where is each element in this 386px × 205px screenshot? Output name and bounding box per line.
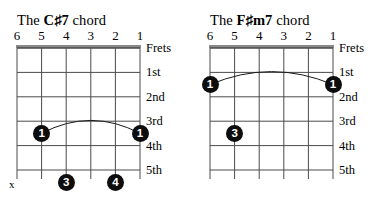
chord-title: The F♯m7 chord bbox=[210, 12, 310, 28]
chord-diagram-f-sharp-m7: The F♯m7 chord 654321 Frets1st2nd3rd4th5… bbox=[193, 0, 386, 205]
string-number-5: 5 bbox=[38, 28, 45, 44]
chord-title-name: C♯7 bbox=[44, 12, 69, 28]
fret-label-4th: 4th bbox=[146, 139, 162, 153]
fret-label-2nd: 2nd bbox=[339, 90, 358, 104]
finger-dot-1: 1 bbox=[33, 125, 50, 142]
finger-dot-3: 3 bbox=[58, 174, 75, 191]
fret-label-2nd: 2nd bbox=[146, 90, 165, 104]
finger-dot-4: 4 bbox=[107, 174, 124, 191]
fret-label-1st: 1st bbox=[339, 65, 354, 79]
fret-label-3rd: 3rd bbox=[146, 114, 163, 128]
chord-title-name: F♯m7 bbox=[237, 12, 273, 28]
barre-arc bbox=[42, 120, 140, 133]
chord-title-prefix: The bbox=[17, 12, 44, 28]
string-number-5: 5 bbox=[231, 28, 238, 44]
muted-string-marker: x bbox=[9, 178, 15, 190]
fret-label-3rd: 3rd bbox=[339, 114, 356, 128]
chord-title-prefix: The bbox=[210, 12, 237, 28]
finger-dot-1: 1 bbox=[202, 76, 219, 93]
string-number-2: 2 bbox=[305, 28, 312, 44]
chord-title-suffix: chord bbox=[272, 12, 309, 28]
string-number-3: 3 bbox=[281, 28, 288, 44]
fret-label-5th: 5th bbox=[339, 163, 355, 177]
chord-chart-page: The C♯7 chord 654321 Frets1st2nd3rd4th5t… bbox=[0, 0, 386, 205]
string-number-1: 1 bbox=[330, 28, 337, 44]
string-number-1: 1 bbox=[137, 28, 144, 44]
chord-diagram-c-sharp-7: The C♯7 chord 654321 Frets1st2nd3rd4th5t… bbox=[0, 0, 193, 205]
chord-title: The C♯7 chord bbox=[17, 12, 106, 28]
fret-label-frets: Frets bbox=[146, 41, 171, 55]
finger-dot-1: 1 bbox=[132, 125, 149, 142]
fret-label-5th: 5th bbox=[146, 163, 162, 177]
finger-dot-1: 1 bbox=[325, 76, 342, 93]
finger-dot-3: 3 bbox=[226, 125, 243, 142]
fret-label-4th: 4th bbox=[339, 139, 355, 153]
string-number-6: 6 bbox=[14, 28, 21, 44]
string-number-4: 4 bbox=[256, 28, 263, 44]
string-number-2: 2 bbox=[112, 28, 119, 44]
fret-label-frets: Frets bbox=[339, 41, 364, 55]
barre-arc bbox=[210, 72, 333, 85]
string-number-3: 3 bbox=[88, 28, 95, 44]
fret-label-1st: 1st bbox=[146, 65, 161, 79]
string-number-4: 4 bbox=[63, 28, 70, 44]
string-number-6: 6 bbox=[207, 28, 214, 44]
chord-title-suffix: chord bbox=[69, 12, 106, 28]
